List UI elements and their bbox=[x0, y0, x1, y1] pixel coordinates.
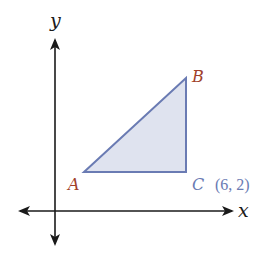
triangle-abc bbox=[84, 78, 186, 172]
vertex-a-label: A bbox=[66, 175, 80, 194]
x-axis-label: x bbox=[238, 199, 249, 221]
y-axis-label: y bbox=[49, 9, 61, 31]
vertex-b-label: B bbox=[191, 67, 204, 86]
coordinate-diagram: y x A B C (6, 2) bbox=[0, 0, 273, 260]
vertex-c-label: C bbox=[192, 175, 204, 194]
vertex-c-coordinates: (6, 2) bbox=[215, 176, 250, 194]
